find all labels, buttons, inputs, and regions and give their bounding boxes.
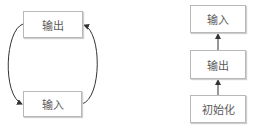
node-label: 输入 [42,96,64,112]
right-node-init: 初始化 [190,95,246,123]
left-node-output: 输出 [23,11,83,38]
node-label: 初始化 [202,101,235,117]
right-node-input: 输入 [190,5,246,33]
right-node-output: 输出 [190,50,246,79]
node-label: 输出 [42,17,64,33]
left-node-input: 输入 [23,91,82,117]
loop-arrow-output-to-input [8,24,23,104]
node-label: 输出 [207,57,229,73]
loop-arrow-input-to-output [82,25,97,104]
node-label: 输入 [207,11,229,27]
